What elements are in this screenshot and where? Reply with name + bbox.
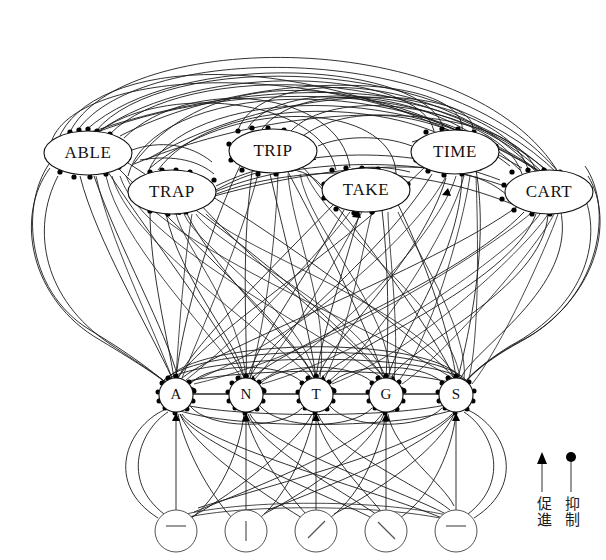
network-diagram: ABLE TRAP TRIP TAKE TIME CART [0,0,606,560]
letter-node-label: T [311,386,320,402]
letter-node-label: N [241,386,252,402]
letter-node-n[interactable]: N [229,378,263,412]
word-node-label: CART [526,182,573,201]
arrow-up-icon [537,452,547,464]
letter-node-label: G [381,386,392,402]
feature-node-slash-diagonal[interactable] [295,510,337,552]
word-node-trap[interactable]: TRAP [128,170,216,214]
filled-dot-icon [566,452,576,462]
word-node-label: TRAP [149,182,195,201]
word-node-label: TRIP [253,141,292,160]
legend-inhibitory-label: 抑制 [563,496,579,528]
word-node-able[interactable]: ABLE [44,131,132,175]
feature-node-horizontal-bar-left[interactable] [155,510,197,552]
word-node-label: ABLE [65,143,112,162]
feature-node-horizontal-bar-right[interactable] [435,510,477,552]
letter-node-s[interactable]: S [439,378,473,412]
letter-node-group: A N T G S [159,378,473,412]
letter-node-a[interactable]: A [159,378,193,412]
letter-node-label: A [171,386,182,402]
word-node-cart[interactable]: CART [505,170,593,214]
letter-node-label: S [452,386,460,402]
letter-node-g[interactable]: G [369,378,403,412]
legend-markers [537,452,576,492]
word-node-time[interactable]: TIME [411,130,499,174]
word-node-label: TIME [433,142,477,161]
network-canvas: ABLE TRAP TRIP TAKE TIME CART [0,0,606,560]
word-node-take[interactable]: TAKE [322,168,410,212]
feature-node-backslash-diagonal[interactable] [365,510,407,552]
letter-node-t[interactable]: T [299,378,333,412]
feature-node-vertical-bar[interactable] [225,510,267,552]
word-node-trip[interactable]: TRIP [229,129,317,173]
word-node-label: TAKE [343,180,389,199]
word-lateral-inhibition-edges [50,57,575,208]
feature-letter-edges [126,410,507,522]
legend-excitatory-label: 促進 [535,496,551,528]
